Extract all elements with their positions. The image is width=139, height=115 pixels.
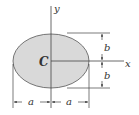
a-label-left: a (28, 96, 34, 107)
centroid-label: C (39, 55, 49, 69)
ellipse-diagram: y x C b b a a (0, 0, 139, 115)
x-axis-label: x (125, 58, 131, 69)
b-label-top: b (104, 42, 110, 53)
y-axis-label: y (53, 3, 60, 14)
b-label-bottom: b (104, 70, 110, 81)
a-label-right: a (66, 96, 72, 107)
